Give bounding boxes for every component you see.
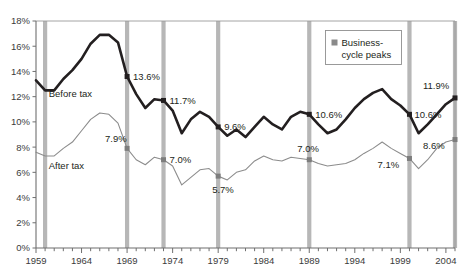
corporate-profits-line-chart: 0%2%4%6%8%10%12%14%16%18% 19591964196919… <box>0 0 466 273</box>
x-tick-label: 1959 <box>25 255 46 266</box>
x-tick-label: 1979 <box>208 255 229 266</box>
legend-swatch-icon <box>332 40 338 46</box>
legend-label-line2: cycle peaks <box>342 49 392 60</box>
peak-band-1989 <box>307 21 311 248</box>
data-point-label: 13.6% <box>133 71 160 82</box>
data-point-label: 10.6% <box>315 109 342 120</box>
data-point-marker <box>453 95 458 100</box>
x-tick-label: 1999 <box>390 255 411 266</box>
x-tick-label: 1964 <box>71 255 92 266</box>
y-tick-label: 6% <box>16 167 30 178</box>
y-tick-label: 8% <box>16 142 30 153</box>
chart-container: 0%2%4%6%8%10%12%14%16%18% 19591964196919… <box>0 0 466 273</box>
data-point-label: 7.0% <box>297 143 319 154</box>
y-tick-label: 12% <box>11 91 31 102</box>
peak-band-1979 <box>216 21 220 248</box>
data-point-label: 7.1% <box>377 159 399 170</box>
data-point-marker <box>216 174 221 179</box>
y-tick-label: 16% <box>11 41 31 52</box>
data-point-marker <box>307 112 312 117</box>
y-tick-label: 14% <box>11 66 31 77</box>
x-tick-label: 1989 <box>299 255 320 266</box>
x-tick-label: 1984 <box>253 255 274 266</box>
x-tick-label: 1974 <box>162 255 183 266</box>
peak-band-2000 <box>407 21 411 248</box>
x-tick-label: 1969 <box>117 255 138 266</box>
series-label-after-tax: After tax <box>49 160 85 171</box>
data-point-marker <box>125 74 130 79</box>
y-tick-label: 18% <box>11 15 31 26</box>
legend: Business-cycle peaks <box>326 31 402 65</box>
y-tick-label: 10% <box>11 116 31 127</box>
data-point-marker <box>161 157 166 162</box>
peak-band-1960 <box>43 21 47 248</box>
data-point-marker <box>407 156 412 161</box>
x-tick-label: 2004 <box>435 255 456 266</box>
y-tick-label: 2% <box>16 217 30 228</box>
data-point-marker <box>161 98 166 103</box>
data-point-label: 7.9% <box>105 133 127 144</box>
y-tick-label: 0% <box>16 242 30 253</box>
peak-band-1973 <box>161 21 165 248</box>
data-point-label: 11.7% <box>170 95 197 106</box>
data-point-marker <box>453 137 458 142</box>
data-point-label: 5.7% <box>212 184 234 195</box>
y-tick-label: 4% <box>16 192 30 203</box>
data-point-label: 8.6% <box>423 140 445 151</box>
data-point-label: 7.0% <box>170 154 192 165</box>
data-point-marker <box>125 146 130 151</box>
x-tick-label: 1994 <box>344 255 365 266</box>
data-point-marker <box>407 112 412 117</box>
legend-label-line1: Business- <box>342 37 384 48</box>
data-point-label: 9.6% <box>224 121 246 132</box>
data-point-label: 10.6% <box>414 109 441 120</box>
data-point-marker <box>307 157 312 162</box>
data-point-label: 11.9% <box>423 80 450 91</box>
data-point-marker <box>216 124 221 129</box>
series-label-before-tax: Before tax <box>49 88 93 99</box>
